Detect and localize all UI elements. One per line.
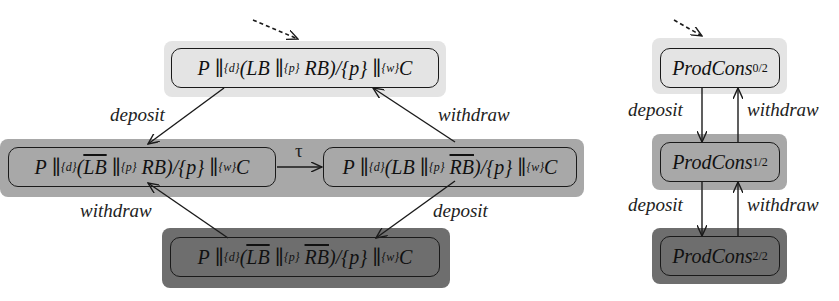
- edge-label-deposit-top-left: deposit: [110, 104, 165, 126]
- sync-set-w: {w}: [381, 250, 399, 265]
- process-p: P: [35, 156, 47, 179]
- edge-label-withdraw-right-top: withdraw: [438, 104, 510, 126]
- lb-full: LB: [83, 156, 106, 179]
- prodcons-name: ProdCons: [672, 151, 752, 174]
- process-c: C: [399, 246, 412, 269]
- sync-set-p: {p}: [429, 160, 445, 175]
- rb: RB: [142, 156, 166, 179]
- rb: RB: [305, 57, 329, 80]
- edge-label-withdraw-2: withdraw: [747, 194, 819, 216]
- prodcons-node-1: ProdCons1/2: [660, 142, 780, 182]
- hide-set: /{p}: [481, 156, 513, 179]
- sync-set-d: {d}: [369, 160, 385, 175]
- sync-set-d: {d}: [61, 160, 77, 175]
- sync-set-w: {w}: [381, 61, 399, 76]
- prodcons-node-2: ProdCons2/2: [660, 236, 780, 276]
- state-node-top: P ∥{d}(LB ∥{p} RB)/{p} ∥{w}C: [171, 48, 439, 88]
- sync-set-d: {d}: [224, 250, 240, 265]
- prodcons-sub: 0/2: [753, 61, 768, 76]
- prodcons-name: ProdCons: [672, 245, 752, 268]
- process-c: C: [399, 57, 412, 80]
- lb: LB: [246, 57, 269, 80]
- prodcons-sub: 2/2: [753, 249, 768, 264]
- lb-full: LB: [246, 246, 269, 269]
- process-c: C: [544, 156, 557, 179]
- prodcons-name: ProdCons: [672, 57, 752, 80]
- state-node-left: P ∥{d}(LB ∥{p} RB)/{p} ∥{w}C: [8, 147, 276, 187]
- sync-set-p: {p}: [121, 160, 137, 175]
- edge-label-deposit-right-bottom: deposit: [433, 200, 488, 222]
- sync-set-w: {w}: [218, 160, 236, 175]
- process-p: P: [343, 156, 355, 179]
- hide-set: /{p}: [173, 156, 205, 179]
- sync-set-d: {d}: [224, 61, 240, 76]
- hide-set: /{p}: [336, 246, 368, 269]
- edge-label-withdraw-1: withdraw: [747, 99, 819, 121]
- edge-label-deposit-2: deposit: [628, 194, 683, 216]
- process-p: P: [198, 57, 210, 80]
- prodcons-sub: 1/2: [753, 155, 768, 170]
- rb-full: RB: [305, 246, 329, 269]
- hide-set: /{p}: [336, 57, 368, 80]
- sync-set-p: {p}: [284, 61, 300, 76]
- edge-label-deposit-1: deposit: [628, 99, 683, 121]
- state-node-right: P ∥{d}(LB ∥{p} RB)/{p} ∥{w}C: [323, 147, 577, 187]
- state-node-bottom: P ∥{d}(LB ∥{p} RB)/{p} ∥{w}C: [170, 237, 440, 277]
- edge-label-tau: τ: [295, 140, 303, 162]
- rb-full: RB: [450, 156, 474, 179]
- process-c: C: [236, 156, 249, 179]
- sync-set-p: {p}: [284, 250, 300, 265]
- sync-set-w: {w}: [526, 160, 544, 175]
- process-p: P: [198, 246, 210, 269]
- lb: LB: [391, 156, 414, 179]
- edge-label-withdraw-bottom-left: withdraw: [80, 200, 152, 222]
- prodcons-node-0: ProdCons0/2: [660, 48, 780, 88]
